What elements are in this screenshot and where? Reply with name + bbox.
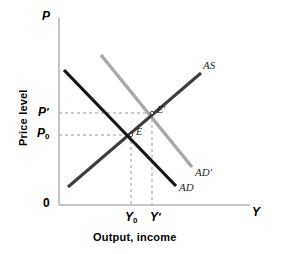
curve-as-line [68,73,201,187]
equilibrium-label-e-prime: E′ [157,105,165,115]
equilibrium-point-e-prime [150,111,153,114]
equilibrium-point-e [129,133,132,136]
x-tick-y-zero-main: Y [125,210,133,224]
origin-label: 0 [43,197,50,209]
y-tick-label-p-zero: P0 [37,127,49,139]
curve-label-ad: AD [179,182,194,193]
y-tick-p-prime-sup: ′ [46,106,49,118]
y-tick-label-p-prime: P′ [38,106,49,118]
x-tick-y-prime-sup: ′ [158,211,161,223]
y-tick-p-prime-main: P [38,105,46,119]
curve-label-ad-prime: AD′ [195,167,212,178]
x-tick-y-zero-sub: 0 [133,216,137,225]
equilibrium-label-e: E [136,127,142,137]
x-axis-symbol: Y [252,206,260,218]
curve-label-as: AS [203,60,215,71]
x-tick-label-y-zero: Y0 [125,211,137,223]
curves-group [64,55,201,187]
y-axis-symbol: P [42,10,50,22]
curve-ad-prime-line [101,55,192,167]
x-axis-title: Output, income [93,232,176,243]
y-tick-p-zero-main: P [37,126,45,140]
ad-as-diagram-figure: P Y 0 P′ P0 Y0 Y′ Price level Output, in… [0,0,286,254]
x-tick-y-prime-main: Y [150,210,158,224]
y-tick-p-zero-sub: 0 [45,132,49,141]
x-tick-label-y-prime: Y′ [150,211,161,223]
y-axis-title: Price level [18,89,29,146]
